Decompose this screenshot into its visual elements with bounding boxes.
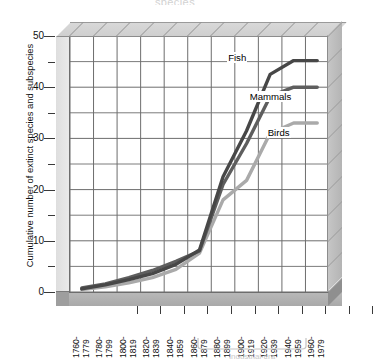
- floor-slab: [56, 291, 342, 306]
- y-axis-tick-labels: 01020304050: [18, 0, 44, 364]
- series-label-mammals: Mammals: [249, 91, 293, 102]
- bracket-annotation: Industrial era: [196, 338, 308, 362]
- y-tick-mark: [44, 87, 55, 88]
- top-slab-edge: [70, 22, 346, 23]
- x-tick-label: 1960-1979: [307, 312, 353, 358]
- y-axis-tick-marks: [44, 0, 56, 364]
- y-tick-mark: [44, 190, 55, 191]
- y-tick-label: 40: [20, 82, 44, 92]
- plot-area: [69, 36, 329, 293]
- y-tick-label: 50: [20, 31, 44, 41]
- floor-left-cap: [56, 292, 69, 306]
- brace-icon: [196, 338, 308, 352]
- x-tick-label-line: 1799: [105, 312, 115, 358]
- y-tick-mark: [44, 241, 55, 242]
- y-tick-label: 10: [20, 236, 44, 246]
- y-tick-label: 30: [20, 133, 44, 143]
- x-tick-label-line: 1979: [317, 312, 327, 358]
- x-tick-label-line: 1779: [81, 312, 91, 358]
- y-tick-mark: [44, 138, 55, 139]
- x-tick-label-line: 1859: [176, 312, 186, 358]
- y-tick-mark: [48, 215, 55, 216]
- brace-label: Industrial era: [196, 352, 308, 361]
- plot-svg: [70, 36, 329, 292]
- series-label-fish: Fish: [227, 52, 247, 63]
- x-tick-label-line: 1800-: [119, 312, 129, 358]
- y-tick-mark: [48, 164, 55, 165]
- y-tick-mark: [48, 62, 55, 63]
- y-tick-label: 0: [20, 287, 44, 297]
- x-tick-label-line: 1839: [152, 312, 162, 358]
- y-tick-mark: [48, 266, 55, 267]
- y-tick-label: 20: [20, 185, 44, 195]
- x-tick-label-line: 1819: [128, 312, 138, 358]
- back-wall-left: [56, 36, 70, 292]
- y-tick-mark: [44, 292, 55, 293]
- chart-3d-box: Fish Mammals Birds: [56, 22, 342, 306]
- y-tick-mark: [48, 113, 55, 114]
- y-tick-mark: [44, 36, 55, 37]
- series-label-birds: Birds: [267, 127, 291, 138]
- x-tick-label-line: 1760-: [72, 312, 82, 358]
